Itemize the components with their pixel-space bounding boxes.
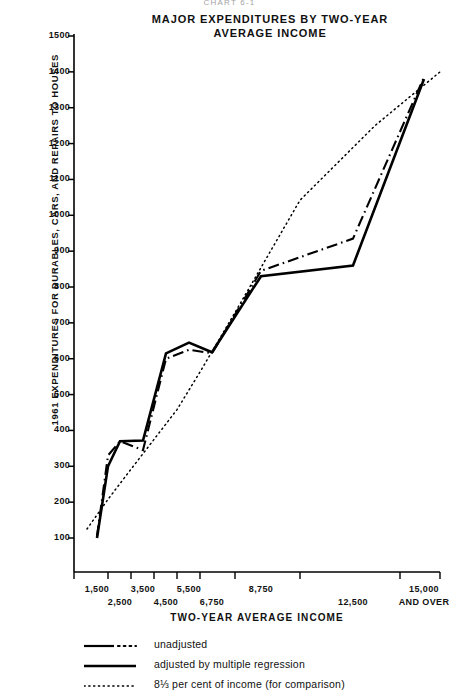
- y-tick-label: 100: [30, 532, 70, 542]
- series-line: [97, 77, 424, 536]
- legend-swatch-dotted: [84, 678, 146, 690]
- y-tick-label: 1000: [30, 209, 70, 219]
- y-tick-label: 400: [30, 424, 70, 434]
- x-tick-label: 3,500: [131, 584, 156, 594]
- x-axis-ticks: [74, 572, 440, 579]
- y-tick-label: 600: [30, 353, 70, 363]
- y-tick-label: 1200: [30, 138, 70, 148]
- x-tick-label: 1,500: [85, 584, 110, 594]
- legend-item-unadjusted: unadjusted: [84, 634, 454, 654]
- legend-item-comparison: 8⅓ per cent of income (for comparison): [84, 674, 454, 694]
- x-tick-label: 8,750: [249, 584, 274, 594]
- x-tick-label: 5,500: [177, 584, 202, 594]
- legend-label-comparison: 8⅓ per cent of income (for comparison): [154, 678, 345, 690]
- y-tick-label: 300: [30, 460, 70, 470]
- y-tick-label: 1300: [30, 102, 70, 112]
- x-tick-label: 2,500: [108, 597, 133, 607]
- y-tick-label: 1400: [30, 66, 70, 76]
- y-tick-label: 200: [30, 496, 70, 506]
- legend-swatch-solid: [84, 658, 146, 670]
- chart-figure: CHART 6-1 MAJOR EXPENDITURES BY TWO-YEAR…: [0, 0, 459, 700]
- x-tick-label: 4,500: [154, 597, 179, 607]
- y-tick-label: 500: [30, 389, 70, 399]
- legend-item-adjusted: adjusted by multiple regression: [84, 654, 454, 674]
- y-tick-label: 1500: [30, 30, 70, 40]
- axis-lines: [74, 34, 440, 572]
- x-tick-label: 15,000: [409, 584, 439, 594]
- x-tick-label: AND OVER: [399, 597, 450, 607]
- series-line: [87, 72, 440, 529]
- x-tick-label: 12,500: [338, 597, 368, 607]
- y-tick-label: 1100: [30, 173, 70, 183]
- legend: unadjusted adjusted by multiple regressi…: [84, 634, 454, 694]
- y-tick-label: 700: [30, 317, 70, 327]
- legend-label-adjusted: adjusted by multiple regression: [154, 658, 305, 670]
- series-line: [97, 79, 424, 538]
- y-axis-tick-labels: 1500140013001200110010009008007006005004…: [26, 0, 70, 560]
- legend-swatch-dash-dot: [84, 638, 146, 650]
- y-tick-label: 800: [30, 281, 70, 291]
- legend-label-unadjusted: unadjusted: [154, 638, 207, 650]
- y-tick-label: 900: [30, 245, 70, 255]
- data-series-layer: [87, 72, 440, 538]
- x-tick-label: 6,750: [200, 597, 225, 607]
